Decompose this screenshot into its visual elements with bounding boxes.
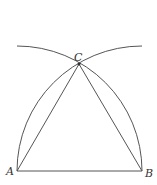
geometry-diagram: C A B <box>0 0 157 185</box>
segment-ac <box>17 64 79 171</box>
label-a: A <box>5 165 14 178</box>
label-c: C <box>74 51 83 64</box>
segment-bc <box>79 64 142 171</box>
label-b: B <box>144 167 153 180</box>
